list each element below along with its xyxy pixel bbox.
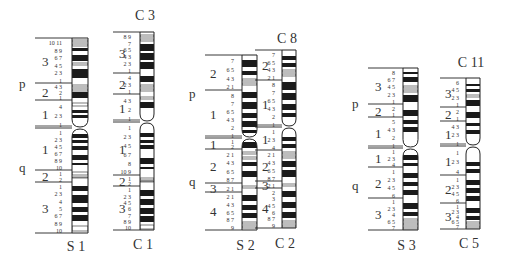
region-label: 3 — [375, 207, 382, 222]
band-light — [140, 39, 154, 41]
band-light — [403, 90, 418, 92]
band-dark — [242, 162, 257, 166]
chromosome-c5: 364 52 3122114 32 31112 34212 34 56312 3… — [440, 55, 484, 251]
band-light — [140, 35, 154, 37]
band-dark — [242, 142, 257, 148]
band-number: 3 — [272, 196, 275, 202]
band-number: 10 — [56, 228, 62, 234]
band-dark — [140, 133, 154, 137]
band-number: 1 — [128, 89, 131, 95]
band-number: 7 — [456, 224, 459, 230]
band-number: 1 — [456, 177, 459, 183]
band-number: 4 3 — [268, 106, 276, 112]
band-dark — [466, 188, 480, 193]
band-light — [282, 221, 296, 223]
band-number: 2 1 — [268, 75, 276, 81]
band-number: 2 3 — [55, 70, 63, 76]
band-group — [282, 56, 296, 227]
band-light — [72, 103, 88, 106]
chromosome-s2: 276 54 32 11876 54 32111222 14 36 58 732… — [189, 55, 257, 253]
p-arm-label: p — [352, 96, 359, 111]
band-number: 1 — [456, 141, 459, 147]
band-light — [72, 177, 88, 178]
region-label: 2 — [42, 85, 49, 100]
band-number: 1 — [128, 116, 131, 122]
band-number: 8 7 — [227, 177, 235, 183]
band-number: 4 — [128, 75, 131, 81]
band-number: 1 — [392, 169, 395, 175]
band-light — [72, 89, 88, 91]
chromosome-name: C 2 — [275, 236, 295, 251]
band-number: 2 3 — [124, 134, 132, 140]
band-number: 10 — [56, 165, 62, 171]
band-dark — [282, 212, 296, 218]
band-number: 8 7 — [227, 217, 235, 223]
region-label: 1 — [42, 142, 49, 157]
band-light — [72, 63, 88, 65]
band-dark — [140, 62, 154, 69]
region-label: 2 — [210, 66, 217, 81]
band-number: 4 — [59, 104, 62, 110]
band-dark — [242, 113, 257, 118]
p-arm-outline — [72, 38, 88, 127]
band-number: 2 3 — [452, 132, 460, 138]
band-number: 2 3 — [55, 113, 63, 119]
band-light — [72, 226, 88, 231]
band-number: 2 3 — [388, 156, 396, 162]
band-number: 8 9 — [55, 48, 63, 54]
band-number: 2 — [231, 144, 234, 150]
band-dark — [403, 72, 418, 74]
band-number: 8 — [272, 82, 275, 88]
band-dark — [466, 216, 480, 220]
band-number: 1 — [59, 184, 62, 190]
band-light — [466, 222, 480, 224]
band-number: 1 — [392, 199, 395, 205]
band-dark — [72, 163, 88, 165]
band-dark — [466, 180, 480, 185]
band-number: 2 3 — [388, 92, 396, 98]
band-number: 7 — [272, 52, 275, 58]
band-number: 6 5 — [227, 169, 235, 175]
band-dark — [72, 48, 88, 51]
region-label: 3 — [375, 79, 382, 94]
band-dark — [466, 169, 480, 173]
band-number: 4 3 — [227, 76, 235, 82]
region-label: 1 — [210, 137, 217, 152]
band-light — [403, 219, 418, 221]
band-light — [242, 186, 257, 188]
band-group — [140, 35, 154, 229]
band-dark — [282, 137, 296, 141]
band-number: 6 5 — [268, 60, 276, 66]
homolog-name: C 11 — [458, 55, 484, 70]
band-number: 2 3 — [452, 95, 460, 101]
band-dark — [242, 195, 257, 201]
band-dark — [466, 100, 480, 106]
band-dark — [466, 196, 480, 201]
band-number: 8 9 — [55, 158, 63, 164]
band-number: 2 3 — [124, 61, 132, 67]
band-number: 4 5 — [124, 200, 132, 206]
band-number: 1 — [456, 102, 459, 108]
band-number: 4 3 — [227, 160, 235, 166]
band-number: 1 — [128, 68, 131, 74]
band-dark — [403, 190, 418, 195]
band-number: 4 3 — [452, 124, 460, 130]
band-dark — [466, 123, 480, 126]
band-dark — [140, 145, 154, 149]
band-number: 6 7 — [124, 152, 132, 158]
q-arm-outline — [403, 149, 418, 230]
band-dark — [72, 134, 88, 138]
band-number: 6 7 — [55, 213, 63, 219]
band-dark — [466, 208, 480, 213]
band-dark — [403, 155, 418, 160]
band-light — [242, 222, 257, 224]
band-number: 6 7 — [55, 151, 63, 157]
q-arm-label: q — [352, 178, 359, 193]
chromosome-s3: 386 74 52 31221154 321112 34212 34 56312… — [352, 68, 418, 253]
band-number: 2 3 — [388, 206, 396, 212]
band-dark — [403, 77, 418, 82]
band-number: 1 — [59, 122, 62, 128]
band-dark — [242, 102, 257, 109]
region-label: 1 — [210, 107, 217, 122]
band-number: 4 — [59, 199, 62, 205]
